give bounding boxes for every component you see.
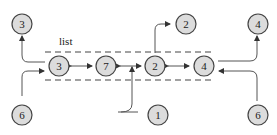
svg-text:2: 2: [183, 18, 189, 30]
outer-node-top-3: 3: [12, 14, 32, 34]
svg-text:3: 3: [56, 60, 62, 72]
svg-text:3: 3: [19, 18, 25, 30]
svg-text:2: 2: [152, 60, 158, 72]
list-node-4: 4: [194, 56, 214, 76]
list-label: list: [59, 35, 72, 47]
svg-text:1: 1: [155, 109, 161, 121]
svg-text:6: 6: [255, 109, 261, 121]
svg-text:4: 4: [201, 60, 207, 72]
edge-bot6-to-list: [22, 71, 44, 96]
outer-node-top-4: 4: [248, 14, 268, 34]
list-node-2: 2: [145, 56, 165, 76]
svg-text:4: 4: [255, 18, 261, 30]
edge-list4-to-top4: [218, 36, 257, 61]
svg-text:6: 6: [19, 109, 25, 121]
linked-list-diagram: list 3 7 2 4 3 6 1: [0, 0, 277, 135]
edge-1-to-list: [118, 67, 138, 112]
outer-node-bottom-6-right: 6: [248, 105, 268, 125]
list-node-3: 3: [49, 56, 69, 76]
edge-list2-to-top2: [155, 24, 170, 53]
list-node-7: 7: [96, 56, 116, 76]
svg-text:7: 7: [103, 60, 109, 72]
edge-bot6-to-list4: [219, 71, 257, 101]
outer-node-top-2: 2: [176, 14, 196, 34]
edge-list3-to-top3: [22, 36, 45, 62]
outer-node-bottom-6-left: 6: [12, 105, 32, 125]
outer-node-bottom-1: 1: [148, 105, 168, 125]
